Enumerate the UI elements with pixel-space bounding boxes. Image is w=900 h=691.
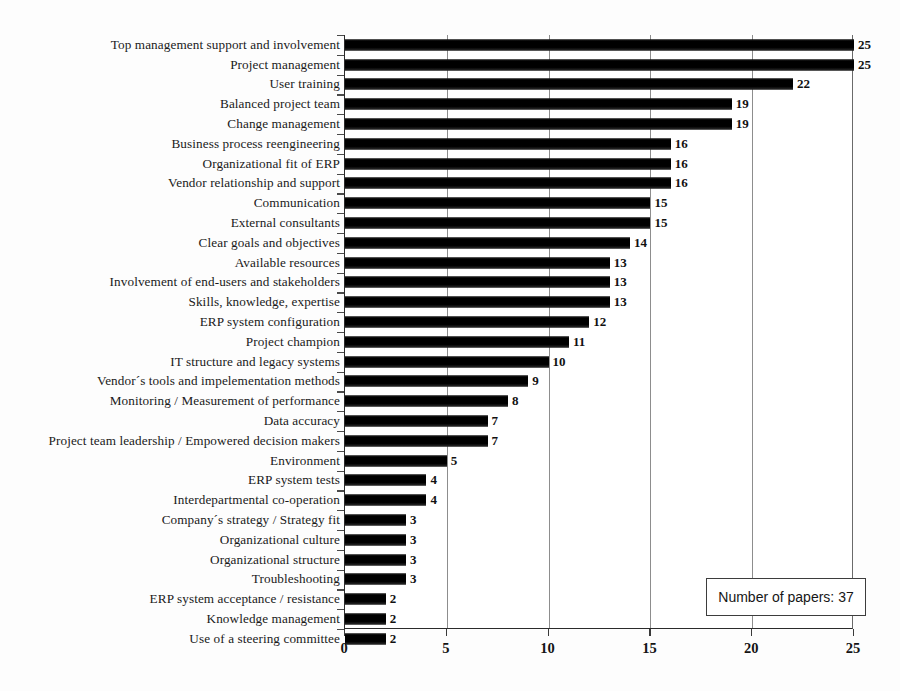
bar-row: ERP system tests4 bbox=[0, 471, 900, 491]
bar-row: Environment5 bbox=[0, 451, 900, 471]
category-label: Knowledge management bbox=[207, 611, 340, 627]
bar-row: User training22 bbox=[0, 75, 900, 95]
bar bbox=[345, 416, 488, 427]
bar-value-label: 13 bbox=[614, 274, 627, 290]
x-tick-label: 25 bbox=[846, 640, 861, 657]
bar-row: Clear goals and objectives14 bbox=[0, 233, 900, 253]
bar-row: ERP system configuration12 bbox=[0, 312, 900, 332]
category-label: Environment bbox=[270, 453, 340, 469]
y-tick bbox=[337, 233, 344, 234]
bar bbox=[345, 614, 386, 625]
bar-row: External consultants15 bbox=[0, 213, 900, 233]
bar-value-label: 3 bbox=[410, 571, 417, 587]
y-tick bbox=[337, 372, 344, 373]
bar bbox=[345, 158, 671, 169]
bar-value-label: 3 bbox=[410, 532, 417, 548]
category-label: Communication bbox=[254, 195, 340, 211]
y-tick bbox=[337, 530, 344, 531]
category-label: Business process reengineering bbox=[171, 136, 340, 152]
y-tick bbox=[337, 490, 344, 491]
bar-value-label: 13 bbox=[614, 255, 627, 271]
category-label: ERP system tests bbox=[248, 472, 340, 488]
category-label: Use of a steering committee bbox=[189, 631, 340, 647]
bar bbox=[345, 633, 386, 644]
bar-row: Organizational fit of ERP16 bbox=[0, 154, 900, 174]
category-label: Company´s strategy / Strategy fit bbox=[162, 512, 340, 528]
bar bbox=[345, 594, 386, 605]
bar bbox=[345, 534, 406, 545]
bar-row: Project champion11 bbox=[0, 332, 900, 352]
y-tick bbox=[337, 213, 344, 214]
y-tick bbox=[337, 451, 344, 452]
x-tick-label: 10 bbox=[540, 640, 555, 657]
bar-value-label: 2 bbox=[390, 611, 397, 627]
bar bbox=[345, 376, 528, 387]
bar-value-label: 2 bbox=[390, 591, 397, 607]
category-label: Organizational structure bbox=[210, 552, 340, 568]
y-tick bbox=[337, 510, 344, 511]
bar bbox=[345, 218, 650, 229]
bar-value-label: 16 bbox=[675, 175, 688, 191]
category-label: Top management support and involvement bbox=[111, 37, 340, 53]
x-tick-label: 5 bbox=[442, 640, 449, 657]
bar-row: Project management25 bbox=[0, 55, 900, 75]
category-label: Involvement of end-users and stakeholder… bbox=[110, 274, 340, 290]
bar-value-label: 15 bbox=[654, 195, 667, 211]
bar-value-label: 15 bbox=[654, 215, 667, 231]
bar bbox=[345, 317, 589, 328]
x-tick-label: 15 bbox=[642, 640, 657, 657]
y-tick bbox=[337, 629, 344, 630]
category-label: Project team leadership / Empowered deci… bbox=[49, 433, 340, 449]
y-tick bbox=[337, 391, 344, 392]
y-tick bbox=[337, 589, 344, 590]
y-tick bbox=[337, 550, 344, 551]
bar-value-label: 16 bbox=[675, 156, 688, 172]
bar-row: Involvement of end-users and stakeholder… bbox=[0, 273, 900, 293]
bar-row: Vendor relationship and support16 bbox=[0, 174, 900, 194]
bar-row: IT structure and legacy systems10 bbox=[0, 352, 900, 372]
category-label: Monitoring / Measurement of performance bbox=[110, 393, 340, 409]
bar-value-label: 11 bbox=[573, 334, 585, 350]
y-tick bbox=[337, 193, 344, 194]
category-label: Vendor relationship and support bbox=[168, 175, 340, 191]
category-label: Project management bbox=[230, 57, 340, 73]
bar-row: Company´s strategy / Strategy fit3 bbox=[0, 510, 900, 530]
bar-value-label: 19 bbox=[736, 96, 749, 112]
category-label: Change management bbox=[227, 116, 340, 132]
bar bbox=[345, 79, 793, 90]
x-tick bbox=[548, 629, 549, 636]
y-tick bbox=[337, 292, 344, 293]
bar-row: Interdepartmental co-operation4 bbox=[0, 490, 900, 510]
y-tick bbox=[337, 471, 344, 472]
bar-value-label: 12 bbox=[593, 314, 606, 330]
bar-row: Skills, knowledge, expertise13 bbox=[0, 292, 900, 312]
y-tick bbox=[337, 273, 344, 274]
category-label: Organizational fit of ERP bbox=[203, 156, 340, 172]
category-label: Vendor´s tools and impelementation metho… bbox=[97, 373, 340, 389]
bar bbox=[345, 455, 447, 466]
category-label: Skills, knowledge, expertise bbox=[188, 294, 340, 310]
category-label: Organizational culture bbox=[220, 532, 340, 548]
bar-value-label: 13 bbox=[614, 294, 627, 310]
y-tick bbox=[337, 352, 344, 353]
y-tick bbox=[337, 134, 344, 135]
category-label: Interdepartmental co-operation bbox=[173, 492, 340, 508]
y-tick bbox=[337, 114, 344, 115]
bar bbox=[345, 99, 732, 110]
bar bbox=[345, 574, 406, 585]
bar-row: Data accuracy7 bbox=[0, 411, 900, 431]
bar-value-label: 16 bbox=[675, 136, 688, 152]
y-tick bbox=[337, 570, 344, 571]
y-tick bbox=[337, 174, 344, 175]
y-tick bbox=[337, 411, 344, 412]
bar bbox=[345, 356, 549, 367]
bar-row: Balanced project team19 bbox=[0, 94, 900, 114]
bar-value-label: 25 bbox=[858, 37, 871, 53]
bar bbox=[345, 178, 671, 189]
bar bbox=[345, 495, 426, 506]
category-label: Troubleshooting bbox=[252, 571, 340, 587]
bar-value-label: 7 bbox=[492, 413, 499, 429]
category-label: ERP system acceptance / resistance bbox=[150, 591, 340, 607]
chart-page: Top management support and involvement25… bbox=[0, 0, 900, 691]
bar bbox=[345, 515, 406, 526]
